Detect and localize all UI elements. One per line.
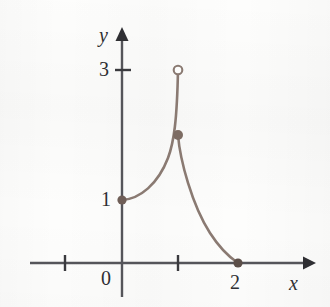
graph-figure: y x 3 1 0 2 xyxy=(0,0,330,307)
y-axis-arrow-icon xyxy=(116,27,129,41)
x-axis-label: x xyxy=(289,273,298,293)
x-axis-arrow-icon xyxy=(303,257,316,270)
plot-canvas xyxy=(0,0,330,307)
endpoint-markers-group xyxy=(117,66,242,268)
origin-label: 0 xyxy=(101,268,111,288)
y-tick-label-3: 3 xyxy=(99,59,109,79)
y-axis-label: y xyxy=(99,25,108,45)
open-point-1-3-marker xyxy=(174,66,183,75)
closed-point-0-1-marker xyxy=(117,195,126,204)
curve-branch-right xyxy=(178,135,238,263)
closed-point-2-0-marker xyxy=(233,258,242,267)
x-tick-label-2: 2 xyxy=(230,272,240,292)
axes-group xyxy=(30,27,316,297)
closed-point-1-2-marker xyxy=(173,130,183,140)
curve-branch-left xyxy=(122,70,178,200)
y-tick-label-1: 1 xyxy=(101,189,111,209)
